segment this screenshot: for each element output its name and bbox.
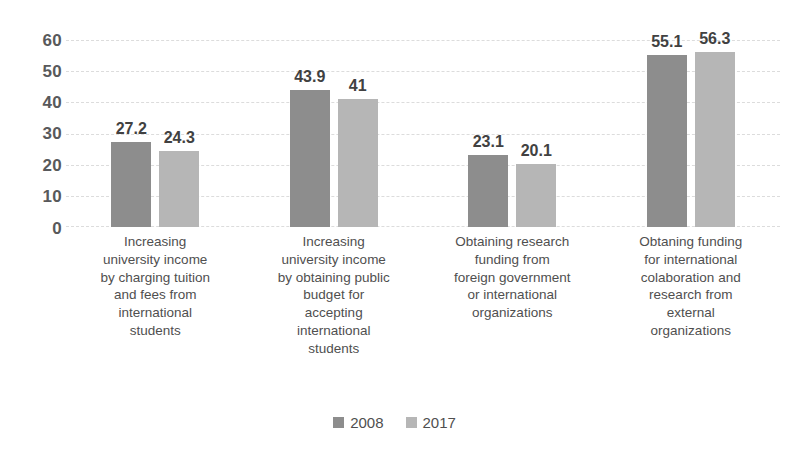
chart-legend: 2008 2017: [0, 415, 789, 430]
y-tick-label: 30: [18, 125, 62, 142]
bar-2008[interactable]: [111, 142, 151, 227]
category-label-line: Obtaining research: [425, 233, 600, 251]
bar-value-label: 20.1: [521, 143, 552, 159]
category-label-line: and fees from: [68, 286, 243, 304]
bar-group: 55.156.3: [602, 40, 781, 227]
bar-value-label: 24.3: [164, 130, 195, 146]
bar-chart: 60 50 40 30 20 10 0 27.224.343.94123.120…: [0, 0, 789, 459]
category-label-line: for international: [604, 251, 779, 269]
category-label-line: Increasing: [247, 233, 422, 251]
y-axis: 60 50 40 30 20 10 0: [18, 0, 62, 459]
category-label-line: organizations: [425, 304, 600, 322]
bar-value-label: 55.1: [651, 34, 682, 50]
x-axis-category-labels: Increasinguniversity incomeby charging t…: [66, 233, 780, 393]
category-label-line: international: [68, 304, 243, 322]
legend-item-2017: 2017: [406, 415, 456, 430]
bar-value-label: 56.3: [699, 31, 730, 47]
plot-area: 27.224.343.94123.120.155.156.3: [66, 40, 780, 227]
bar-slot: 41: [338, 40, 378, 227]
category-label-line: Obtaning funding: [604, 233, 779, 251]
bar-value-label: 23.1: [473, 134, 504, 150]
category-label-line: accepting: [247, 304, 422, 322]
y-tick-label: 50: [18, 63, 62, 80]
bar-2017[interactable]: [159, 151, 199, 227]
y-tick-label: 20: [18, 157, 62, 174]
bar-2017[interactable]: [516, 164, 556, 227]
y-tick-label: 60: [18, 32, 62, 49]
category-label-3: Obtaining researchfunding fromforeign go…: [423, 233, 602, 393]
category-label-line: organizations: [604, 322, 779, 340]
bar-slot: 55.1: [647, 40, 687, 227]
bar-slot: 43.9: [290, 40, 330, 227]
category-label-1: Increasinguniversity incomeby charging t…: [66, 233, 245, 393]
legend-swatch-icon: [406, 417, 417, 428]
category-label-line: international: [247, 322, 422, 340]
category-label-line: university income: [68, 251, 243, 269]
bar-2008[interactable]: [468, 155, 508, 227]
bar-value-label: 27.2: [116, 121, 147, 137]
category-label-line: funding from: [425, 251, 600, 269]
bar-2008[interactable]: [290, 90, 330, 227]
category-label-line: students: [247, 340, 422, 358]
bar-group: 43.941: [245, 40, 424, 227]
y-tick-label: 10: [18, 188, 62, 205]
category-label-line: colaboration and: [604, 269, 779, 287]
bar-2008[interactable]: [647, 55, 687, 227]
bar-slot: 27.2: [111, 40, 151, 227]
legend-label: 2017: [423, 415, 456, 430]
category-label-line: students: [68, 322, 243, 340]
category-label-line: university income: [247, 251, 422, 269]
bar-group: 27.224.3: [66, 40, 245, 227]
category-label-line: or international: [425, 286, 600, 304]
bar-2017[interactable]: [338, 99, 378, 227]
category-label-line: by obtaining public: [247, 269, 422, 287]
category-label-line: budget for: [247, 286, 422, 304]
category-label-2: Increasinguniversity incomeby obtaining …: [245, 233, 424, 393]
legend-item-2008: 2008: [333, 415, 383, 430]
legend-swatch-icon: [333, 417, 344, 428]
category-label-line: foreign government: [425, 269, 600, 287]
bar-value-label: 43.9: [294, 69, 325, 85]
bar-groups: 27.224.343.94123.120.155.156.3: [66, 40, 780, 227]
bar-2017[interactable]: [695, 52, 735, 227]
bar-slot: 24.3: [159, 40, 199, 227]
category-label-line: research from: [604, 286, 779, 304]
bar-slot: 20.1: [516, 40, 556, 227]
category-label-4: Obtaning fundingfor internationalcolabor…: [602, 233, 781, 393]
bar-slot: 23.1: [468, 40, 508, 227]
bar-group: 23.120.1: [423, 40, 602, 227]
bar-value-label: 41: [349, 78, 367, 94]
category-label-line: external: [604, 304, 779, 322]
category-label-line: by charging tuition: [68, 269, 243, 287]
bar-slot: 56.3: [695, 40, 735, 227]
y-tick-label: 40: [18, 94, 62, 111]
category-label-line: Increasing: [68, 233, 243, 251]
y-tick-label: 0: [18, 220, 62, 237]
legend-label: 2008: [350, 415, 383, 430]
